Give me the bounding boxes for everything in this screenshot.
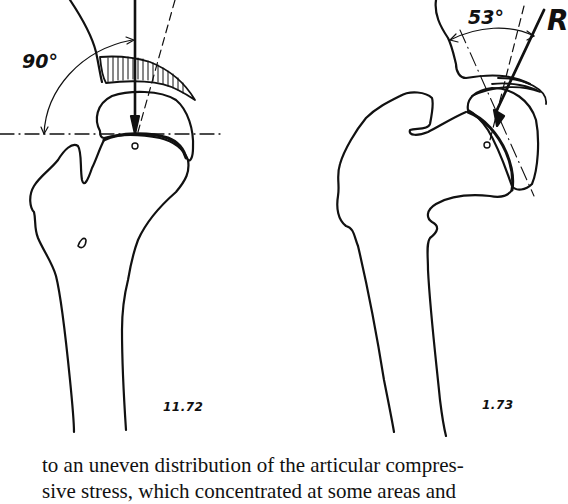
right-joint-line xyxy=(468,112,513,190)
body-line-1: to an uneven distribution of the articul… xyxy=(42,452,568,478)
right-femur-outline xyxy=(337,92,466,432)
body-paragraph: to an uneven distribution of the articul… xyxy=(42,452,568,504)
right-angle-label: 53° xyxy=(468,6,504,28)
left-dashed-axis xyxy=(138,0,175,132)
left-femur-outline xyxy=(30,140,104,432)
left-angle-label: 90° xyxy=(22,50,58,72)
right-hip-diagram xyxy=(337,0,546,436)
left-femur-neck xyxy=(122,160,189,430)
right-angle-arc xyxy=(450,28,534,40)
body-line-2: sive stress, which concentrated at some … xyxy=(42,478,568,504)
right-femoral-head xyxy=(468,88,538,190)
right-force-arrowhead xyxy=(494,110,504,126)
left-center-of-rotation xyxy=(132,143,138,149)
left-figure-number: 11.72 xyxy=(163,400,203,414)
figure-hip-diagrams: 90° 53° R 11.72 1.73 xyxy=(0,0,568,440)
left-trochanter-notch xyxy=(78,238,86,247)
left-joint-line xyxy=(104,134,186,158)
left-femoral-head xyxy=(97,92,193,161)
left-pelvis-outline xyxy=(70,0,102,82)
force-r-label: R xyxy=(547,4,568,37)
right-figure-number: 1.73 xyxy=(482,398,514,412)
right-center-of-rotation xyxy=(484,142,490,148)
